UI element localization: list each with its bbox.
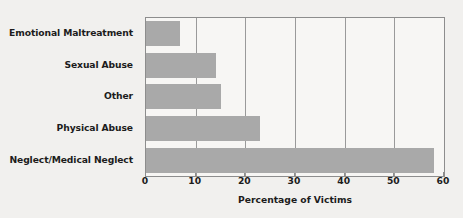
bar-physical-abuse [146,116,260,141]
bar-row [146,113,444,145]
category-axis: Emotional Maltreatment Sexual Abuse Othe… [0,17,140,175]
category-label-text: Physical Abuse [57,123,133,132]
plot-area [145,17,445,177]
x-tick-label-20: 20 [238,176,251,185]
bar-row [146,50,444,82]
x-tick-label-10: 10 [188,176,201,185]
category-label-sexual-abuse: Sexual Abuse [0,49,140,81]
bar-sexual-abuse [146,53,216,78]
bars-layer [146,18,444,176]
bar-neglect-medical-neglect [146,148,434,173]
x-tick-label-30: 30 [288,176,301,185]
bar-emotional-maltreatment [146,21,180,46]
bar-row [146,144,444,176]
category-label-neglect-medical-neglect: Neglect/Medical Neglect [0,143,140,175]
x-tick-label-60: 60 [437,176,450,185]
x-tick-label-40: 40 [337,176,350,185]
bar-row [146,81,444,113]
bar-chart: Emotional Maltreatment Sexual Abuse Othe… [0,0,463,218]
x-axis-ticks: 0102030405060 [145,176,445,192]
category-label-physical-abuse: Physical Abuse [0,112,140,144]
x-tick-label-50: 50 [387,176,400,185]
category-label-text: Other [104,91,133,100]
category-label-text: Sexual Abuse [64,60,133,69]
bar-other [146,84,221,109]
x-axis-title: Percentage of Victims [145,195,445,204]
category-label-emotional-maltreatment: Emotional Maltreatment [0,17,140,49]
category-label-text: Emotional Maltreatment [9,28,133,37]
x-tick-label-0: 0 [142,176,148,185]
bar-row [146,18,444,50]
category-label-text: Neglect/Medical Neglect [9,155,133,164]
category-label-other: Other [0,80,140,112]
